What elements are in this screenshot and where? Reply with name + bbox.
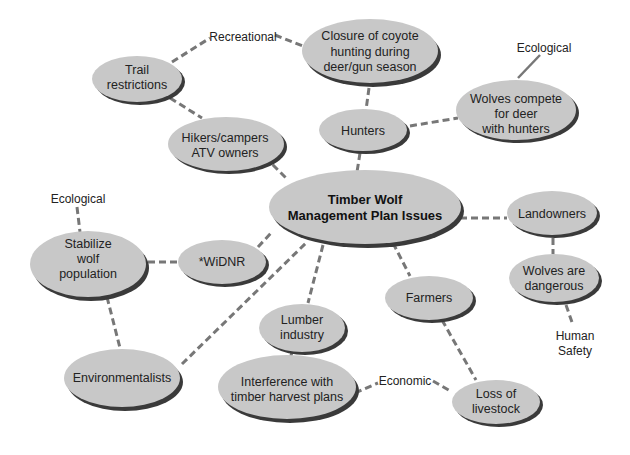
svg-text:with hunters: with hunters: [481, 122, 549, 136]
svg-text:wolf: wolf: [76, 252, 100, 266]
category-ecological-top: Ecological: [517, 41, 572, 55]
node-closure-coyote-hunting: Closure of coyote hunting during deer/gu…: [302, 19, 441, 87]
svg-text:for deer: for deer: [494, 107, 537, 121]
category-economic: Economic: [379, 374, 432, 388]
edge-center-lumber: [308, 245, 323, 303]
node-environmentalists: Environmentalists: [64, 349, 183, 411]
svg-text:ATV owners: ATV owners: [191, 146, 258, 160]
svg-text:timber harvest plans: timber harvest plans: [231, 390, 344, 404]
svg-text:Trail: Trail: [125, 63, 149, 77]
svg-text:Timber Wolf: Timber Wolf: [328, 192, 403, 207]
edge-trail-recreational: [172, 38, 210, 62]
edge-ecological-stabilize: [77, 207, 80, 232]
edge-farmers-livestock: [442, 320, 476, 380]
svg-text:Loss of: Loss of: [476, 387, 517, 401]
edge-economic-livestock: [433, 381, 452, 392]
svg-text:hunting during: hunting during: [330, 45, 409, 59]
svg-text:*WiDNR: *WiDNR: [199, 255, 246, 269]
edge-hunters-compete: [410, 118, 458, 126]
svg-text:Wolves are: Wolves are: [523, 264, 585, 278]
node-landowners: Landowners: [507, 191, 600, 238]
node-trail-restrictions: Trail restrictions: [92, 56, 185, 105]
svg-text:Hunters: Hunters: [341, 124, 385, 138]
node-hikers-campers: Hikers/campers ATV owners: [168, 117, 287, 174]
node-wolves-dangerous: Wolves are dangerous: [509, 254, 602, 305]
node-lumber-industry: Lumber industry: [259, 304, 348, 355]
concept-map: Trail restrictions Closure of coyote hun…: [0, 0, 630, 455]
node-widnr: *WiDNR: [178, 240, 269, 287]
node-farmers: Farmers: [385, 276, 476, 323]
svg-text:Hikers/campers: Hikers/campers: [182, 131, 269, 145]
node-hunters: Hunters: [319, 109, 410, 154]
svg-text:Farmers: Farmers: [406, 291, 453, 305]
svg-text:restrictions: restrictions: [107, 78, 167, 92]
edge-hunters-center: [357, 153, 360, 172]
svg-text:deer/gun season: deer/gun season: [323, 60, 416, 74]
svg-text:Lumber: Lumber: [281, 313, 323, 327]
category-human-safety-line2: Safety: [558, 344, 592, 358]
node-wolves-compete: Wolves compete for deer with hunters: [456, 80, 579, 143]
edge-dangerous-safety: [566, 305, 573, 325]
category-ecological-left: Ecological: [51, 192, 106, 206]
edge-recreational-closure: [275, 35, 303, 46]
node-stabilize-wolf-population: Stabilize wolf population: [30, 231, 149, 301]
svg-text:Environmentalists: Environmentalists: [73, 371, 172, 385]
svg-text:Stabilize: Stabilize: [64, 237, 111, 251]
edge-center-farmers: [393, 243, 410, 276]
svg-text:Closure of coyote: Closure of coyote: [321, 29, 418, 43]
svg-text:population: population: [59, 267, 117, 281]
node-interference-timber: Interference with timber harvest plans: [218, 355, 359, 423]
edge-trail-hikers: [170, 98, 202, 118]
svg-text:Management Plan Issues: Management Plan Issues: [288, 208, 443, 223]
svg-text:industry: industry: [280, 328, 325, 342]
category-recreational: Recreational: [209, 30, 276, 44]
svg-text:dangerous: dangerous: [524, 279, 583, 293]
node-loss-of-livestock: Loss of livestock: [452, 380, 543, 427]
edge-compete-ecological: [518, 55, 540, 78]
svg-text:Wolves compete: Wolves compete: [470, 92, 562, 106]
edge-widnr-center: [258, 232, 272, 247]
svg-text:Interference with: Interference with: [241, 375, 333, 389]
svg-text:livestock: livestock: [472, 402, 521, 416]
edge-stabilize-environmentalists: [107, 297, 120, 348]
node-central-topic: Timber Wolf Management Plan Issues: [269, 170, 464, 248]
svg-text:Landowners: Landowners: [518, 207, 586, 221]
category-human-safety-line1: Human: [556, 329, 595, 343]
edge-closure-hunters: [366, 88, 369, 110]
